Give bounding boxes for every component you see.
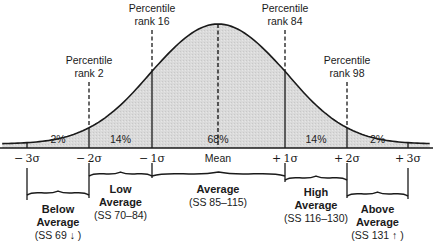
- percentile-label-line1: Percentile: [262, 2, 309, 14]
- classification-low-average: LowAverage(SS 70–84): [94, 183, 147, 221]
- classification-ranges: BelowAverage(SS 69 ↓ )LowAverage(SS 70–8…: [27, 163, 408, 241]
- tick-label: + 3σ: [395, 152, 421, 165]
- percentile-label-line1: Percentile: [66, 54, 113, 66]
- brace: [347, 192, 408, 196]
- classification-label-line1: Average: [196, 183, 239, 195]
- region-percent-label: 2%: [370, 133, 385, 145]
- percentile-label-line2: rank 16: [134, 15, 169, 27]
- classification-range: (SS 116–130): [284, 212, 348, 224]
- classification-range: (SS 85–115): [189, 196, 247, 208]
- percentile-label-line2: rank 2: [74, 67, 103, 79]
- region-percent-label: 14%: [305, 133, 326, 145]
- percentile-label-line1: Percentile: [324, 54, 371, 66]
- brace: [152, 172, 285, 176]
- classification-label-line1: Low: [110, 183, 132, 195]
- classification-label-line2: Average: [356, 216, 399, 228]
- brace: [285, 176, 347, 180]
- region-percent-label: 68%: [207, 133, 228, 145]
- classification-label-line2: Average: [36, 216, 79, 228]
- percentile-label-line2: rank 98: [329, 67, 364, 79]
- classification-range: (SS 131 ↑ ): [351, 229, 404, 241]
- classification-high-average: HighAverage(SS 116–130): [284, 186, 348, 224]
- tick-label-mean: Mean: [205, 152, 231, 164]
- classification-range: (SS 70–84): [94, 209, 147, 221]
- percentile-label-line1: Percentile: [129, 2, 176, 14]
- curve-fill: [2, 24, 430, 148]
- classification-label-line1: Above: [361, 203, 395, 215]
- classification-range: (SS 69 ↓ ): [35, 229, 82, 241]
- brace: [27, 191, 89, 195]
- classification-label-line1: High: [304, 186, 329, 198]
- classification-below-average: BelowAverage(SS 69 ↓ ): [35, 203, 82, 241]
- classification-above-average: AboveAverage(SS 131 ↑ ): [351, 203, 404, 241]
- brace: [89, 172, 152, 176]
- bell-curve: [2, 24, 430, 148]
- tick-label: − 3σ: [14, 152, 40, 165]
- normal-distribution-chart: 2%14%68%14%2% − 3σ− 2σ− 1σMean+ 1σ+ 2σ+ …: [0, 0, 433, 242]
- percentile-label-line2: rank 84: [267, 15, 302, 27]
- classification-label-line2: Average: [294, 199, 337, 211]
- classification-label-line1: Below: [42, 203, 75, 215]
- x-tick-labels: − 3σ− 2σ− 1σMean+ 1σ+ 2σ+ 3σ: [14, 152, 421, 165]
- classification-label-line2: Average: [99, 196, 142, 208]
- classification-average: Average(SS 85–115): [189, 183, 247, 208]
- region-percent-label: 14%: [110, 133, 131, 145]
- region-percent-label: 2%: [50, 133, 65, 145]
